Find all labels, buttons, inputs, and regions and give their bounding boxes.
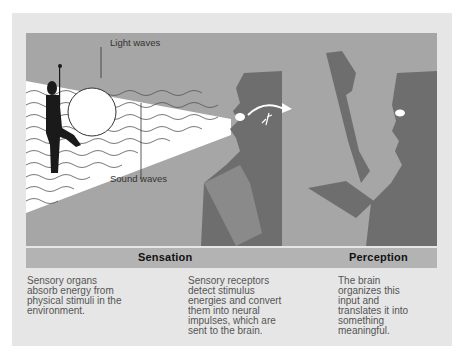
perception-person-silhouette-icon: [308, 51, 437, 246]
sensation-title: Sensation: [138, 251, 192, 263]
stage-band: Sensation Perception: [26, 248, 437, 268]
sound-waves-label: Sound waves: [110, 173, 167, 184]
diagram-frame: Light waves Sound waves Sensation Percep…: [12, 13, 452, 346]
perception-title: Perception: [349, 251, 408, 263]
sensory-receptors-description: Sensory receptors detect stimulus energi…: [188, 276, 281, 336]
eye-icon: [235, 113, 245, 121]
light-waves-label: Light waves: [110, 37, 160, 48]
illustration-panel: Light waves Sound waves: [26, 33, 437, 246]
drum-icon: [68, 88, 116, 136]
perception-eye-icon: [395, 110, 405, 117]
sensation-perception-illustration: [26, 33, 437, 246]
sensation-person-silhouette-icon: [201, 71, 282, 246]
sensory-organs-description: Sensory organs absorb energy from physic…: [27, 276, 121, 316]
brain-description: The brain organizes this input and trans…: [338, 276, 408, 336]
